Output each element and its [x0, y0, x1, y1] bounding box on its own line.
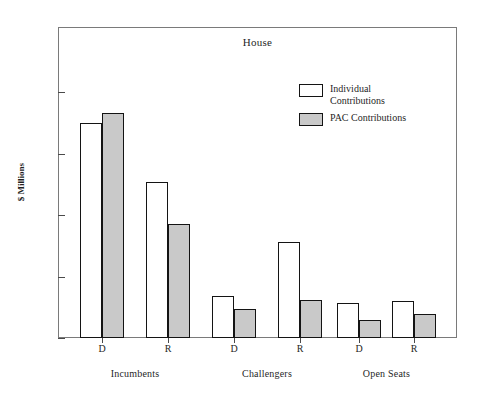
x-tick-label: R: [394, 343, 434, 354]
legend-swatch-individual-icon: [299, 84, 323, 97]
bar-individual-contributions: [337, 303, 359, 338]
y-tick-mark: [58, 277, 65, 278]
legend: Individual Contributions PAC Contributio…: [299, 83, 406, 132]
legend-item-individual: Individual Contributions: [299, 83, 406, 106]
x-tick-label: R: [148, 343, 188, 354]
x-tick-label: D: [214, 343, 254, 354]
y-tick-mark: [58, 215, 65, 216]
x-tick-label: R: [280, 343, 320, 354]
y-axis-title: $ Millions: [16, 142, 26, 222]
y-tick-mark: [58, 92, 65, 93]
legend-label-individual: Individual Contributions: [330, 83, 385, 106]
bar-individual-contributions: [392, 301, 414, 338]
bar-individual-contributions: [212, 296, 234, 338]
x-tick-label: D: [339, 343, 379, 354]
x-group-label: Incumbents: [75, 368, 195, 379]
bar-individual-contributions: [278, 242, 300, 338]
bar-pac-contributions: [168, 224, 190, 338]
legend-item-pac: PAC Contributions: [299, 112, 406, 126]
y-tick-mark: [58, 338, 65, 339]
y-tick-mark: [58, 154, 65, 155]
bar-pac-contributions: [102, 113, 124, 338]
legend-swatch-pac-icon: [299, 113, 323, 126]
bar-pac-contributions: [300, 300, 322, 338]
x-group-label: Challengers: [207, 368, 327, 379]
bar-individual-contributions: [146, 182, 168, 338]
bar-individual-contributions: [80, 123, 102, 338]
x-group-label: Open Seats: [327, 368, 447, 379]
bar-pac-contributions: [414, 314, 436, 338]
bar-pac-contributions: [359, 320, 381, 338]
legend-label-pac: PAC Contributions: [330, 112, 406, 124]
bar-chart: House $ Millions $403020100 DRDRDRIncumb…: [0, 0, 483, 414]
chart-title: House: [58, 36, 457, 48]
x-tick-label: D: [82, 343, 122, 354]
bar-pac-contributions: [234, 309, 256, 338]
